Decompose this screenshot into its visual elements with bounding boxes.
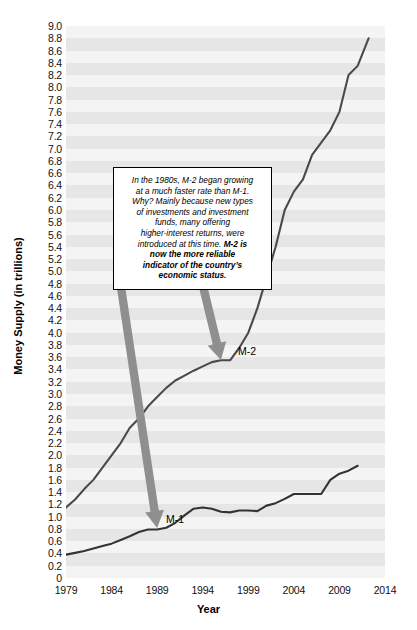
y-tick-label: 3.4 (2, 364, 62, 375)
y-tick-label: 4.0 (2, 328, 62, 339)
y-tick-label: 4.2 (2, 315, 62, 326)
y-tick-label: 2.4 (2, 426, 62, 437)
money-supply-chart: 9.08.88.68.48.28.07.87.67.47.27.06.86.66… (0, 0, 417, 630)
y-tick-label: 3.6 (2, 352, 62, 363)
y-tick-label: 0.6 (2, 536, 62, 547)
annotation-line-6: higher-interest returns, were (141, 228, 245, 238)
y-tick-label: 8.6 (2, 46, 62, 57)
y-tick-label: 5.4 (2, 242, 62, 253)
y-tick-label: 3.8 (2, 340, 62, 351)
y-tick-label: 0.8 (2, 524, 62, 535)
y-tick-label: 7.8 (2, 95, 62, 106)
y-tick-label: 5.2 (2, 254, 62, 265)
y-tick-label: 6.2 (2, 193, 62, 204)
x-tick-label: 2004 (283, 584, 306, 596)
annotation-bold-1: M-2 is (224, 239, 248, 249)
y-tick-label: 1.6 (2, 475, 62, 486)
x-tick-label: 2009 (328, 584, 351, 596)
y-tick-label: 4.4 (2, 303, 62, 314)
y-tick-label: 0 (2, 573, 62, 584)
y-tick-label: 2.0 (2, 450, 62, 461)
m1-series-label: M-1 (166, 513, 184, 525)
y-axis-ticks: 9.08.88.68.48.28.07.87.67.47.27.06.86.66… (0, 0, 62, 630)
x-tick-label: 1979 (55, 584, 78, 596)
y-tick-label: 1.2 (2, 499, 62, 510)
plot-area (66, 26, 385, 578)
annotation-bold-2: now the more reliable (150, 249, 235, 259)
y-tick-label: 7.0 (2, 144, 62, 155)
annotation-callout: In the 1980s, M-2 began growingat a much… (113, 167, 272, 290)
series-lines (66, 26, 385, 578)
y-tick-label: 6.4 (2, 180, 62, 191)
x-axis-ticks: 19791984198919941999200420092014 (0, 584, 417, 602)
y-tick-label: 8.0 (2, 82, 62, 93)
x-tick-label: 2014 (374, 584, 397, 596)
annotation-bold-3: indicator of the country’s (143, 260, 242, 270)
y-tick-label: 2.6 (2, 414, 62, 425)
y-tick-label: 7.4 (2, 119, 62, 130)
annotation-text: In the 1980s, M-2 began growingat a much… (120, 175, 265, 281)
x-tick-label: 1989 (146, 584, 169, 596)
y-tick-label: 3.0 (2, 389, 62, 400)
y-tick-label: 6.6 (2, 168, 62, 179)
annotation-line-1: In the 1980s, M-2 began growing (132, 175, 253, 185)
annotation-line-4: of investments and investment (136, 207, 248, 217)
y-tick-label: 8.8 (2, 33, 62, 44)
annotation-line-5: funds, many offering (155, 217, 230, 227)
y-tick-label: 2.2 (2, 438, 62, 449)
y-tick-label: 7.6 (2, 107, 62, 118)
y-tick-label: 9.0 (2, 21, 62, 32)
annotation-line-3: Why? Mainly because new types (132, 196, 253, 206)
x-tick-label: 1984 (100, 584, 123, 596)
m1-line (66, 466, 358, 555)
y-axis-title: Money Supply (in trillions) (12, 216, 24, 396)
x-tick-label: 1999 (237, 584, 260, 596)
annotation-bold-4: economic status. (159, 270, 227, 280)
y-tick-label: 5.0 (2, 266, 62, 277)
y-tick-label: 4.6 (2, 291, 62, 302)
y-tick-label: 7.2 (2, 131, 62, 142)
y-tick-label: 5.8 (2, 217, 62, 228)
y-tick-label: 1.0 (2, 512, 62, 523)
y-tick-label: 5.6 (2, 230, 62, 241)
y-tick-label: 1.8 (2, 463, 62, 474)
y-tick-label: 0.2 (2, 561, 62, 572)
y-tick-label: 6.8 (2, 156, 62, 167)
y-tick-label: 8.2 (2, 70, 62, 81)
x-axis-title: Year (0, 603, 417, 615)
y-tick-label: 3.2 (2, 377, 62, 388)
y-tick-label: 0.4 (2, 548, 62, 559)
y-tick-label: 4.8 (2, 279, 62, 290)
m2-series-label: M-2 (238, 345, 256, 357)
x-tick-label: 1994 (191, 584, 214, 596)
y-tick-label: 6.0 (2, 205, 62, 216)
annotation-line-7: introduced at this time. (138, 239, 224, 249)
y-tick-label: 8.4 (2, 58, 62, 69)
annotation-line-2: at a much faster rate than M-1. (136, 186, 249, 196)
y-tick-label: 2.8 (2, 401, 62, 412)
y-tick-label: 1.4 (2, 487, 62, 498)
